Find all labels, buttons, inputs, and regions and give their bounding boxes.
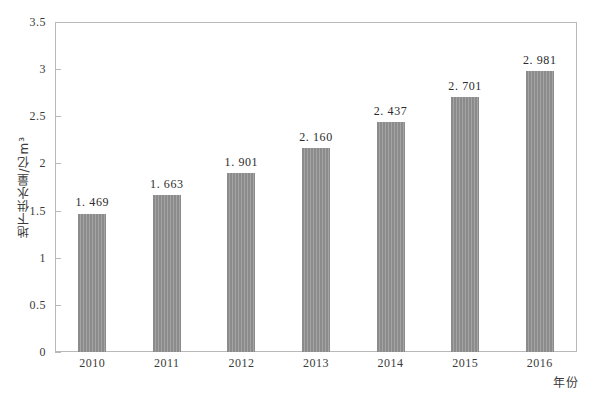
bar: [377, 122, 405, 352]
y-axis-tick-label: 0.5: [30, 297, 47, 312]
bar-group: 1. 469: [55, 22, 129, 352]
bar-group: 2. 160: [279, 22, 353, 352]
bar: [78, 214, 106, 353]
x-axis-tick-label: 2015: [452, 356, 478, 371]
bar-group: 1. 901: [204, 22, 278, 352]
y-axis-tick-labels: 00.511.522.533.5: [0, 22, 55, 352]
bar-value-label: 1. 469: [75, 195, 109, 210]
y-axis-tick-label: 1.5: [30, 203, 47, 218]
y-axis-tick: [55, 352, 61, 353]
y-axis-tick-label: 1: [40, 250, 47, 265]
y-axis-tick-label: 2: [40, 156, 47, 171]
bar-value-label: 1. 663: [150, 177, 184, 192]
x-axis-tick-label: 2011: [154, 356, 180, 371]
x-axis-tick-label: 2012: [228, 356, 254, 371]
y-axis-tick-label: 2.5: [30, 109, 47, 124]
y-axis-tick-label: 0: [40, 345, 47, 360]
x-axis-tick-label: 2010: [79, 356, 105, 371]
bar-value-label: 2. 437: [374, 104, 408, 119]
bar-value-label: 2. 981: [523, 53, 557, 68]
bar-chart-figure: 地下供水量/亿m³ 00.511.522.533.5 1. 4691. 6631…: [0, 0, 597, 407]
y-axis-tick-label: 3.5: [30, 15, 47, 30]
x-axis-title: 年份: [553, 373, 579, 390]
bar-value-label: 1. 901: [225, 155, 259, 170]
bar-value-label: 2. 701: [448, 79, 482, 94]
x-axis-tick-label: 2013: [303, 356, 329, 371]
bar-group: 2. 437: [354, 22, 428, 352]
bar-group: 1. 663: [130, 22, 204, 352]
y-axis-tick-label: 3: [40, 62, 47, 77]
bar: [526, 71, 554, 352]
bar: [227, 173, 255, 352]
bar-value-label: 2. 160: [299, 130, 333, 145]
bar: [451, 97, 479, 352]
bar-group: 2. 701: [428, 22, 502, 352]
x-axis-tick-label: 2014: [378, 356, 404, 371]
x-axis-tick-labels: 2010201120122013201420152016: [55, 356, 577, 374]
bar-group: 2. 981: [503, 22, 577, 352]
bar: [302, 148, 330, 352]
bar: [153, 195, 181, 352]
bars-layer: 1. 4691. 6631. 9012. 1602. 4372. 7012. 9…: [55, 22, 577, 352]
x-axis-tick-label: 2016: [527, 356, 553, 371]
